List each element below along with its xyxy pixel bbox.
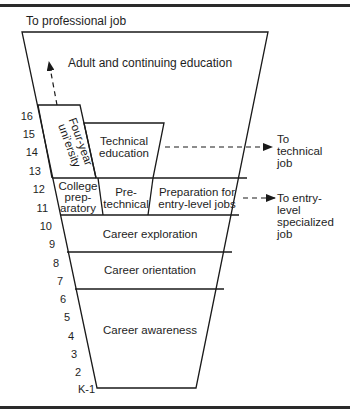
grade-6: 6 — [44, 293, 66, 305]
to-entry-line3: specialized — [277, 216, 334, 228]
grade-15: 15 — [13, 128, 35, 140]
pretech-line2: technical — [101, 198, 151, 210]
pretech-line1: Pre- — [101, 186, 151, 198]
to-technical-job-label: To technical job — [277, 133, 322, 169]
to-technical-line1: To — [277, 133, 322, 145]
grade-7: 7 — [41, 275, 63, 287]
career-awareness-label: Career awareness — [80, 324, 220, 336]
college-preparatory-label: College prep- aratory — [56, 181, 100, 214]
grade-14: 14 — [16, 146, 38, 158]
grade-5: 5 — [48, 311, 70, 323]
pre-technical-label: Pre- technical — [101, 186, 151, 210]
prep-line1: Preparation for — [152, 186, 242, 198]
to-technical-line2: technical — [277, 145, 322, 157]
career-orientation-label: Career orientation — [80, 264, 220, 276]
grade-12: 12 — [23, 183, 45, 195]
grade-k-1: K-1 — [69, 383, 95, 395]
to-technical-line3: job — [277, 157, 322, 169]
grade-11: 11 — [26, 202, 48, 214]
technical-line2: education — [96, 147, 152, 159]
grade-9: 9 — [33, 238, 55, 250]
to-entry-line4: job — [277, 228, 334, 240]
adult-education-label: Adult and continuing education — [68, 57, 232, 69]
technical-education-label: Technical education — [96, 135, 152, 159]
prep-line2: entry-level jobs — [152, 198, 242, 210]
to-professional-job-label: To professional job — [26, 15, 126, 27]
college-line3: aratory — [56, 203, 100, 214]
grade-2: 2 — [59, 366, 81, 378]
to-entry-line2: level — [277, 204, 334, 216]
preparation-entry-level-label: Preparation for entry-level jobs — [152, 186, 242, 210]
grade-13: 13 — [19, 165, 41, 177]
grade-3: 3 — [55, 348, 77, 360]
career-exploration-label: Career exploration — [80, 228, 220, 240]
grade-10: 10 — [30, 220, 52, 232]
to-entry-line1: To entry- — [277, 192, 334, 204]
to-entry-level-job-label: To entry- level specialized job — [277, 192, 334, 240]
grade-16: 16 — [11, 110, 33, 122]
grade-8: 8 — [37, 257, 59, 269]
grade-4: 4 — [52, 330, 74, 342]
technical-line1: Technical — [96, 135, 152, 147]
arrow-to-professional — [49, 62, 57, 105]
